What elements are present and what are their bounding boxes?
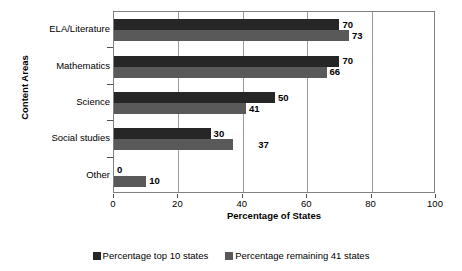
x-axis-title: Percentage of States [113,210,435,221]
y-axis-category-label: Mathematics [18,61,110,71]
bar-data-label: 50 [278,93,289,102]
y-axis-tick [107,120,113,121]
legend-swatch-icon [93,252,101,260]
y-axis-category-labels: ELA/LiteratureMathematicsScienceSocial s… [18,11,110,193]
x-axis-tick-label: 100 [415,198,455,209]
x-axis-tick-label: 0 [93,198,133,209]
bar [114,30,349,41]
x-axis-ticks: 020406080100 [113,194,435,208]
legend-item[interactable]: Percentage remaining 41 states [225,250,369,261]
legend-swatch-icon [225,252,233,260]
x-axis-tick-label: 40 [222,198,262,209]
bar-data-label: 0 [117,165,122,174]
bar [114,139,233,150]
gridline [372,12,373,192]
bar-data-label: 66 [330,67,341,76]
x-axis-tick-label: 80 [351,198,391,209]
bar-data-label: 37 [258,140,269,149]
x-axis-tick-label: 20 [157,198,197,209]
bar-data-label: 10 [149,176,160,185]
y-axis-category-label: Other [18,170,110,180]
legend-label: Percentage remaining 41 states [235,250,369,261]
y-axis-category-label: ELA/Literature [18,24,110,34]
bar [114,176,146,187]
y-axis-category-label: Social studies [18,133,110,143]
bar-data-label: 30 [214,129,225,138]
plot-area: 7073706650413037010 [113,11,435,193]
bar-data-label: 41 [249,104,260,113]
legend-label: Percentage top 10 states [103,250,209,261]
bar [114,67,327,78]
y-axis-tick [107,47,113,48]
bar [114,19,339,30]
bar-data-label: 73 [352,31,363,40]
bar-chart: Content Areas ELA/LiteratureMathematicsS… [0,0,462,271]
bar [114,128,211,139]
legend-item[interactable]: Percentage top 10 states [93,250,209,261]
legend: Percentage top 10 statesPercentage remai… [0,250,462,261]
y-axis-ticks [107,11,113,193]
x-axis-tick-label: 60 [286,198,326,209]
bar-data-label: 70 [342,56,353,65]
y-axis-tick [107,84,113,85]
y-axis-category-label: Science [18,97,110,107]
bar [114,103,246,114]
y-axis-tick [107,157,113,158]
bar-data-label: 70 [342,20,353,29]
bar [114,92,275,103]
bar [114,56,339,67]
